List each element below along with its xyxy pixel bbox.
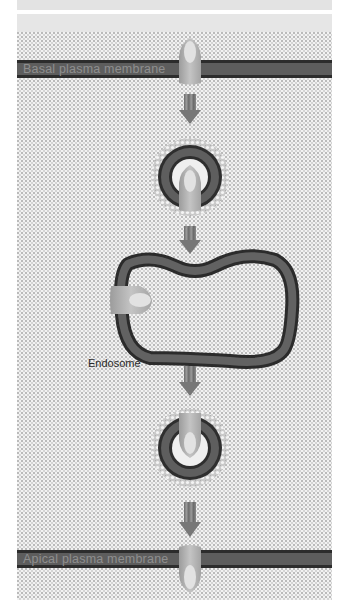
down-arrow-icon <box>179 502 201 537</box>
down-arrow-icon <box>179 226 201 254</box>
endosome-icon <box>110 256 292 362</box>
endosome-label: Endosome <box>88 357 141 369</box>
apical-receptor-icon <box>179 545 201 593</box>
transcytosis-diagram <box>0 0 351 609</box>
coated-vesicle-icon <box>151 138 229 216</box>
down-arrow-icon <box>179 94 201 124</box>
coated-vesicle-icon <box>151 409 229 487</box>
down-arrow-icon <box>179 366 201 396</box>
basal-receptor-icon <box>179 38 201 85</box>
